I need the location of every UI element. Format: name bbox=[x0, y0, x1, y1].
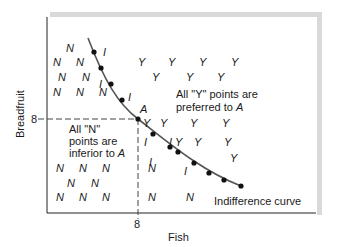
svg-text:I: I bbox=[103, 46, 106, 58]
svg-text:Y: Y bbox=[143, 117, 151, 129]
y-note-line2: preferred toA bbox=[176, 101, 243, 113]
y-axis-title: Breadfruit bbox=[14, 90, 26, 138]
svg-text:Y: Y bbox=[190, 117, 198, 129]
svg-text:N: N bbox=[76, 86, 84, 98]
svg-text:I: I bbox=[99, 78, 102, 90]
svg-text:I: I bbox=[128, 91, 131, 103]
svg-text:N: N bbox=[82, 71, 90, 83]
svg-text:N: N bbox=[76, 56, 84, 68]
svg-text:Y: Y bbox=[194, 136, 202, 148]
svg-text:N: N bbox=[56, 191, 64, 203]
svg-text:N: N bbox=[56, 162, 64, 174]
svg-text:Y: Y bbox=[152, 71, 160, 83]
svg-text:Y: Y bbox=[217, 71, 225, 83]
y-tick-8: 8 bbox=[31, 113, 37, 125]
svg-text:N: N bbox=[91, 177, 99, 189]
x-axis-title: Fish bbox=[168, 231, 189, 243]
svg-text:I: I bbox=[149, 156, 152, 168]
svg-text:Y: Y bbox=[230, 152, 238, 164]
svg-text:I: I bbox=[169, 136, 172, 148]
svg-text:N: N bbox=[67, 177, 75, 189]
n-note-line3: inferior toA bbox=[69, 147, 125, 159]
svg-text:Y: Y bbox=[175, 136, 183, 148]
y-note-line1: All "Y" points are bbox=[176, 88, 258, 100]
x-tick-8: 8 bbox=[134, 218, 140, 230]
curve-label: Indifference curve bbox=[214, 195, 301, 207]
n-note-line2: points are bbox=[69, 135, 117, 147]
svg-text:Y: Y bbox=[138, 56, 146, 68]
svg-text:I: I bbox=[184, 165, 187, 177]
svg-text:N: N bbox=[79, 162, 87, 174]
svg-text:Y: Y bbox=[224, 136, 232, 148]
svg-text:N: N bbox=[58, 71, 66, 83]
svg-text:N: N bbox=[53, 86, 61, 98]
svg-text:N: N bbox=[79, 191, 87, 203]
svg-text:N: N bbox=[148, 191, 156, 203]
svg-text:I: I bbox=[144, 136, 147, 148]
n-note-line1: All "N" bbox=[69, 123, 100, 135]
svg-text:Y: Y bbox=[168, 56, 176, 68]
frame-right-bar bbox=[317, 12, 322, 215]
svg-text:Y: Y bbox=[199, 56, 207, 68]
svg-text:Y: Y bbox=[222, 117, 230, 129]
svg-text:N: N bbox=[186, 191, 194, 203]
svg-text:N: N bbox=[66, 42, 74, 54]
indifference-curve-chart: N N N N N N N N N N N N N N N N N N N Y … bbox=[0, 0, 340, 247]
svg-text:Y: Y bbox=[231, 56, 239, 68]
svg-text:Y: Y bbox=[186, 71, 194, 83]
point-a-label: A bbox=[139, 103, 147, 115]
svg-text:N: N bbox=[53, 56, 61, 68]
svg-text:N: N bbox=[102, 162, 110, 174]
svg-text:N: N bbox=[102, 191, 110, 203]
frame-top-bar bbox=[50, 12, 322, 17]
svg-text:Y: Y bbox=[160, 117, 168, 129]
